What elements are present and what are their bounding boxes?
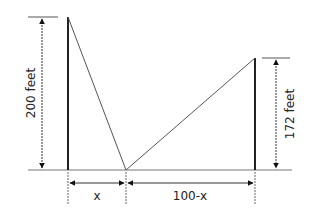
right-pole-height-label: 172 feet [283, 89, 297, 140]
right-wire [126, 58, 255, 170]
left-pole-height-label: 200 feet [24, 68, 38, 119]
diagram-canvas: 200 feet 172 feet x 100-x [0, 0, 310, 210]
100-minus-x-label: 100-x [173, 189, 207, 203]
x-label: x [93, 189, 100, 203]
left-wire [68, 17, 126, 170]
